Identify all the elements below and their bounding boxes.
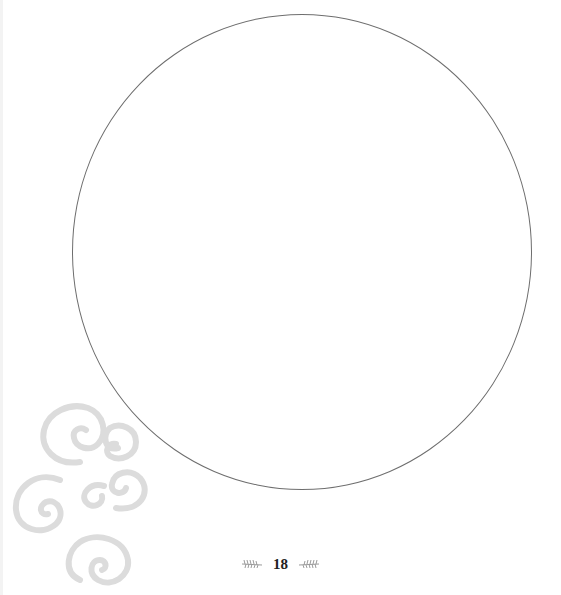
page-footer: 18	[0, 552, 561, 576]
page-number: 18	[273, 556, 288, 573]
coloring-page: 18	[0, 0, 561, 595]
right-sprig-ornament-icon	[298, 559, 320, 569]
left-sprig-ornament-icon	[241, 559, 263, 569]
